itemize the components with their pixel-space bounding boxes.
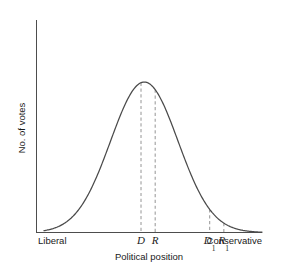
x-axis-title: Political position <box>115 251 183 262</box>
bell-curve-figure: DRD1R1 Liberal Conservative Political po… <box>0 0 288 278</box>
annotation-label-r: R <box>151 234 159 246</box>
x-axis-right-label: Conservative <box>207 235 262 246</box>
chart-svg: DRD1R1 Liberal Conservative Political po… <box>0 0 288 278</box>
x-axis-left-label: Liberal <box>38 235 67 246</box>
annotation-label-d: D <box>136 234 145 246</box>
marker-lines-group <box>141 83 224 233</box>
distribution-curve <box>44 82 262 232</box>
y-axis-title: No. of votes <box>16 102 27 153</box>
